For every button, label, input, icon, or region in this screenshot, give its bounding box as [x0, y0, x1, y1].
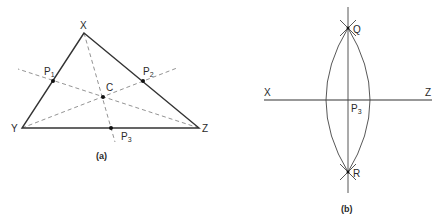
label-vertex-y: Y [11, 123, 18, 134]
geometry-figure: X Y Z P1 P2 P3 C (a) X Z Q R P3 (b) [0, 0, 445, 223]
label-p1: P1 [44, 66, 55, 78]
triangle-xyz [22, 33, 199, 128]
label-z-b: Z [425, 87, 431, 98]
figure-b-perpendicular-bisector: X Z Q R P3 (b) [264, 7, 432, 214]
label-p2: P2 [143, 66, 154, 78]
caption-b: (b) [341, 204, 353, 214]
label-vertex-z: Z [202, 123, 208, 134]
label-r: R [353, 168, 360, 179]
label-vertex-x: X [80, 20, 87, 31]
median-y-p2 [22, 68, 177, 128]
caption-a: (a) [96, 151, 107, 161]
point-p3 [109, 126, 113, 130]
point-q [347, 27, 350, 30]
label-x-b: X [264, 87, 271, 98]
label-centroid-c: C [106, 82, 113, 93]
point-p1 [51, 79, 55, 83]
label-p3-b: P3 [351, 103, 362, 115]
point-c-centroid [101, 95, 105, 99]
label-q: Q [353, 24, 361, 35]
figure-a-triangle-medians: X Y Z P1 P2 P3 C (a) [11, 20, 208, 161]
point-p2 [141, 79, 145, 83]
point-r [347, 171, 350, 174]
label-p3: P3 [121, 131, 132, 143]
